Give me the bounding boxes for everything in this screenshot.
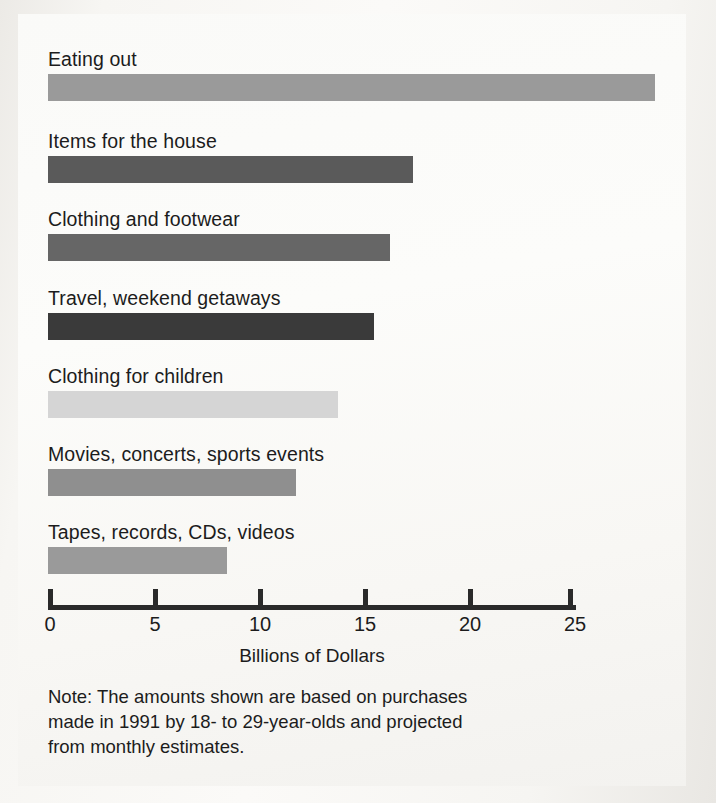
bar <box>48 234 390 261</box>
x-axis-tick <box>258 589 263 610</box>
bar-chart-plot: Eating outItems for the houseClothing an… <box>0 0 716 803</box>
bar <box>48 469 296 496</box>
chart-content: Eating outItems for the houseClothing an… <box>0 0 716 803</box>
bar-group: Items for the house <box>48 130 413 183</box>
x-axis-tick-label: 5 <box>149 613 160 635</box>
chart-page: Eating outItems for the houseClothing an… <box>0 0 716 803</box>
bar-group: Movies, concerts, sports events <box>48 443 324 496</box>
x-axis-tick <box>363 589 368 610</box>
x-axis-tick <box>48 589 53 610</box>
note-line-2: made in 1991 by 18- to 29-year-olds and … <box>48 709 568 734</box>
bar-category-label: Clothing and footwear <box>48 208 390 230</box>
bar <box>48 391 338 418</box>
chart-note: Note: The amounts shown are based on pur… <box>48 684 568 759</box>
bar-category-label: Travel, weekend getaways <box>48 287 374 309</box>
bar <box>48 313 374 340</box>
bar-category-label: Movies, concerts, sports events <box>48 443 324 465</box>
bar-category-label: Eating out <box>48 48 655 70</box>
x-axis-tick <box>153 589 158 610</box>
x-axis-title: Billions of Dollars <box>48 645 576 667</box>
bar-group: Tapes, records, CDs, videos <box>48 521 295 574</box>
x-axis-tick-label: 0 <box>44 613 55 635</box>
x-axis: 0510152025 <box>48 589 576 609</box>
x-axis-tick <box>568 589 573 610</box>
note-line-3: from monthly estimates. <box>48 734 568 759</box>
bar-group: Eating out <box>48 48 655 101</box>
bar <box>48 74 655 101</box>
note-line-1: Note: The amounts shown are based on pur… <box>48 684 568 709</box>
bar-category-label: Items for the house <box>48 130 413 152</box>
bar-category-label: Tapes, records, CDs, videos <box>48 521 295 543</box>
x-axis-tick-label: 15 <box>354 613 376 635</box>
x-axis-tick-label: 10 <box>249 613 271 635</box>
x-axis-line <box>48 605 576 610</box>
x-axis-tick <box>468 589 473 610</box>
bar <box>48 547 227 574</box>
bar <box>48 156 413 183</box>
x-axis-tick-label: 20 <box>459 613 481 635</box>
x-axis-tick-label: 25 <box>564 613 586 635</box>
bar-group: Clothing for children <box>48 365 338 418</box>
bar-group: Clothing and footwear <box>48 208 390 261</box>
bar-category-label: Clothing for children <box>48 365 338 387</box>
bar-group: Travel, weekend getaways <box>48 287 374 340</box>
